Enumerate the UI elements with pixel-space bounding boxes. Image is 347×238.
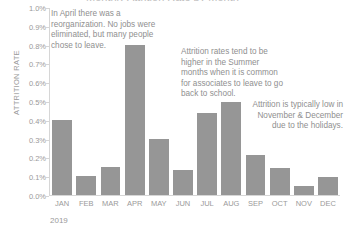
y-axis-tick-mark xyxy=(46,64,49,65)
y-axis-tick-label: 0.0% xyxy=(16,192,46,201)
y-axis-tick-label: 0.8% xyxy=(16,41,46,50)
x-axis-tick-label-nov: NOV xyxy=(292,199,316,208)
y-axis-tick-label: 0.5% xyxy=(16,98,46,107)
y-axis-tick-mark xyxy=(46,196,49,197)
y-axis-tick-label: 0.6% xyxy=(16,79,46,88)
bar-feb[interactable] xyxy=(76,176,96,195)
y-axis-tick-mark xyxy=(46,177,49,178)
x-axis-line xyxy=(49,195,340,196)
x-axis-tick-label-apr: APR xyxy=(123,199,147,208)
x-axis-tick-labels: JANFEBMARAPRMAYJUNJULAUGSEPOCTNOVDEC xyxy=(50,199,340,208)
y-axis-tick-label: 0.1% xyxy=(16,173,46,182)
bar-sep[interactable] xyxy=(246,155,266,195)
annotation-holidays: Attrition is typically low in November &… xyxy=(250,100,343,132)
y-axis-tick-label: 1.0% xyxy=(16,4,46,13)
annotation-summer: Attrition rates tend to be higher in the… xyxy=(181,47,285,100)
x-axis-tick-label-sep: SEP xyxy=(243,199,267,208)
x-axis-tick-label-mar: MAR xyxy=(98,199,122,208)
y-axis-tick-label: 0.3% xyxy=(16,135,46,144)
x-axis-tick-label-jul: JUL xyxy=(195,199,219,208)
y-axis-tick-mark xyxy=(46,140,49,141)
annotation-april: In April there was a reorganization. No … xyxy=(51,9,175,51)
y-axis-tick-labels: 1.0%0.9%0.8%0.7%0.6%0.5%0.4%0.3%0.2%0.1%… xyxy=(16,8,46,196)
bar-may[interactable] xyxy=(149,139,169,195)
x-axis-tick-label-oct: OCT xyxy=(268,199,292,208)
y-axis-tick-label: 0.4% xyxy=(16,116,46,125)
y-axis-tick-mark xyxy=(46,27,49,28)
y-axis-tick-mark xyxy=(46,121,49,122)
bar-jan[interactable] xyxy=(52,120,72,195)
bar-dec[interactable] xyxy=(318,177,338,195)
y-axis-tick-mark xyxy=(46,83,49,84)
y-axis-tick-mark xyxy=(46,102,49,103)
attrition-rate-bar-chart: Monthly Attrition Rate by Month ATTRITIO… xyxy=(0,0,347,238)
y-axis-tick-label: 0.7% xyxy=(16,60,46,69)
bar-nov[interactable] xyxy=(294,186,314,195)
bar-oct[interactable] xyxy=(270,168,290,195)
chart-title: Monthly Attrition Rate by Month xyxy=(86,0,326,1)
y-axis-tick-mark xyxy=(46,46,49,47)
y-axis-tick-mark xyxy=(46,158,49,159)
x-axis-year-label: 2019 xyxy=(50,216,68,225)
bar-mar[interactable] xyxy=(101,167,121,195)
x-axis-tick-label-dec: DEC xyxy=(316,199,340,208)
bar-jul[interactable] xyxy=(197,113,217,195)
bar-jun[interactable] xyxy=(173,170,193,195)
y-axis-tick-label: 0.2% xyxy=(16,154,46,163)
y-axis-tick-label: 0.9% xyxy=(16,22,46,31)
x-axis-tick-label-jan: JAN xyxy=(50,199,74,208)
bar-slot xyxy=(219,8,243,195)
x-axis-tick-label-feb: FEB xyxy=(74,199,98,208)
x-axis-tick-label-may: MAY xyxy=(147,199,171,208)
bar-slot xyxy=(195,8,219,195)
y-axis-tick-mark xyxy=(46,8,49,9)
bar-apr[interactable] xyxy=(125,45,145,195)
x-axis-tick-label-aug: AUG xyxy=(219,199,243,208)
bar-aug[interactable] xyxy=(221,102,241,196)
x-axis-tick-label-jun: JUN xyxy=(171,199,195,208)
